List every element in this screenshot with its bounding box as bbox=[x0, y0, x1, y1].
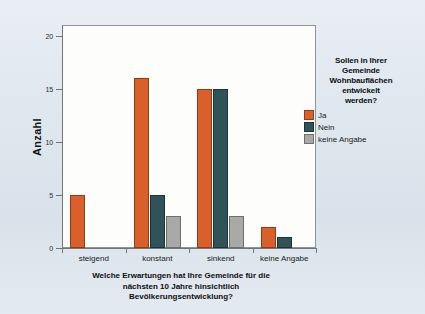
bar-chart-figure: 05101520 Anzahl steigendkonstantsinkendk… bbox=[0, 0, 425, 314]
bar-keine-angabe-ja bbox=[261, 227, 276, 248]
legend-title-line-2: Gemeinde bbox=[300, 66, 422, 76]
legend-title-line-5: werden? bbox=[300, 96, 422, 106]
x-axis-tick bbox=[316, 248, 317, 253]
legend-label: Nein bbox=[318, 123, 334, 132]
legend-swatch-icon bbox=[304, 134, 314, 144]
plot-area bbox=[62, 25, 316, 248]
legend-title-line-1: Sollen in Ihrer bbox=[300, 56, 422, 66]
y-axis-tick-label: 20 bbox=[46, 32, 53, 39]
y-axis-tick bbox=[56, 195, 62, 196]
chart-canvas: 05101520 Anzahl steigendkonstantsinkendk… bbox=[0, 0, 425, 314]
x-axis-tick bbox=[126, 248, 127, 253]
bar-keine-angabe-nein bbox=[277, 237, 292, 248]
legend-item-nein: Nein bbox=[304, 122, 422, 132]
y-axis-tick-label: 15 bbox=[46, 85, 53, 92]
legend-swatch-icon bbox=[304, 122, 314, 132]
bar-sinkend-keine-angabe bbox=[229, 216, 244, 248]
x-axis-title-line-3: Bevölkerungsentwicklung? bbox=[36, 292, 326, 303]
legend-item-keine-angabe: keine Angabe bbox=[304, 134, 422, 144]
x-axis-title-line-1: Welche Erwartungen hat Ihre Gemeinde für… bbox=[36, 271, 326, 282]
x-axis-tick-label: sinkend bbox=[207, 254, 235, 263]
y-axis-tick bbox=[56, 36, 62, 37]
legend-title-line-4: entwickelt bbox=[300, 86, 422, 96]
y-axis-line bbox=[62, 25, 63, 248]
bar-sinkend-nein bbox=[213, 89, 228, 248]
y-axis-title: Anzahl bbox=[31, 92, 43, 182]
y-axis-tick bbox=[56, 142, 62, 143]
legend-swatch-icon bbox=[304, 110, 314, 120]
legend-title: Sollen in Ihrer Gemeinde Wohnbauflächen … bbox=[300, 56, 422, 106]
x-axis-tick-label: keine Angabe bbox=[260, 254, 309, 263]
y-axis-tick bbox=[56, 89, 62, 90]
legend-title-line-3: Wohnbauflächen bbox=[300, 76, 422, 86]
bar-konstant-ja bbox=[134, 78, 149, 248]
x-axis-title: Welche Erwartungen hat Ihre Gemeinde für… bbox=[36, 271, 326, 303]
y-axis-tick-label: 5 bbox=[49, 191, 53, 198]
x-axis-tick-label: steigend bbox=[79, 254, 109, 263]
x-axis-title-line-2: nächsten 10 Jahre hinsichtlich bbox=[36, 282, 326, 293]
bar-sinkend-ja bbox=[197, 89, 212, 248]
y-axis-tick-label: 10 bbox=[46, 138, 53, 145]
x-axis-tick-label: konstant bbox=[142, 254, 172, 263]
legend-item-ja: Ja bbox=[304, 110, 422, 120]
y-axis-tick-label: 0 bbox=[49, 245, 53, 252]
legend: Sollen in Ihrer Gemeinde Wohnbauflächen … bbox=[300, 56, 422, 146]
x-axis-tick bbox=[253, 248, 254, 253]
legend-label: Ja bbox=[318, 111, 326, 120]
legend-label: keine Angabe bbox=[318, 135, 367, 144]
bar-konstant-keine-angabe bbox=[166, 216, 181, 248]
x-axis-tick bbox=[62, 248, 63, 253]
bar-steigend-ja bbox=[70, 195, 85, 248]
x-axis-tick bbox=[189, 248, 190, 253]
bar-konstant-nein bbox=[150, 195, 165, 248]
